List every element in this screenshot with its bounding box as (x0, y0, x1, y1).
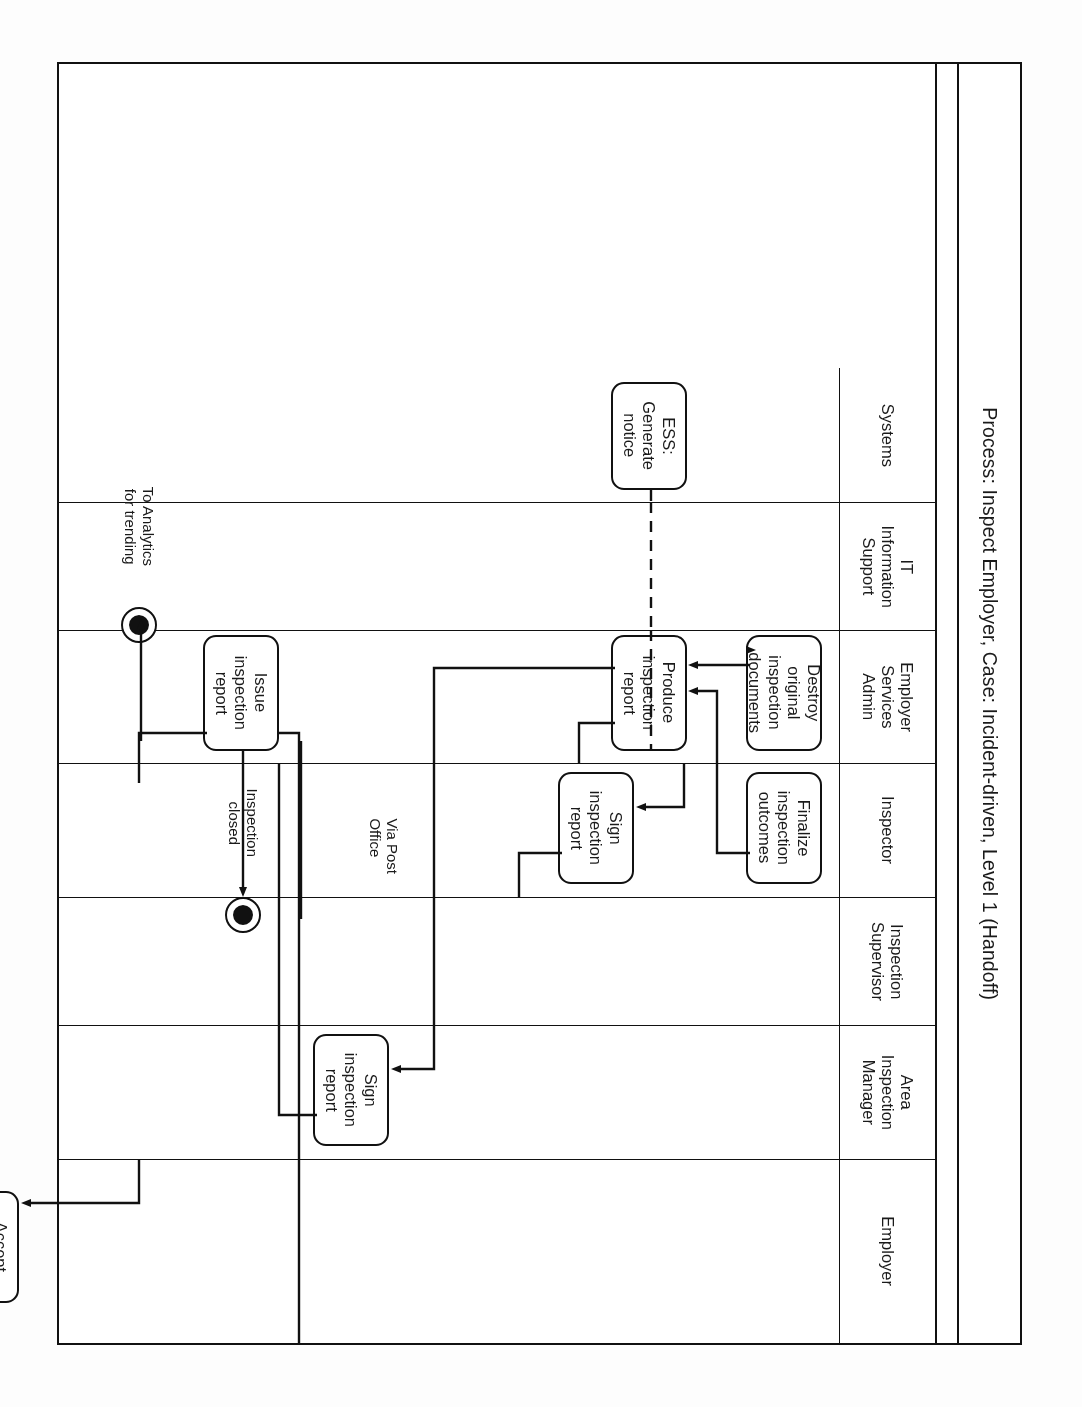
lane-area-inspection-manager: Area Inspection Manager Sign inspection … (59, 1025, 935, 1159)
lane-body-systems: ESS: Generate notice (59, 368, 839, 502)
lane-it-information-support: IT Information Support To Analytics for … (59, 502, 935, 630)
diagram-page: Process: Inspect Employer, Case: Inciden… (0, 0, 1082, 1407)
connectors-area-inspection-manager (59, 1026, 839, 1159)
task-destroy-original-inspection-documents[interactable]: Destroy original inspection documents (746, 635, 822, 751)
task-sign-inspection-report-inspector[interactable]: Sign inspection report (558, 772, 634, 884)
lane-inspection-supervisor: Inspection Supervisor (59, 897, 935, 1025)
connectors-inspection-supervisor (59, 898, 839, 1025)
lane-employer-services-admin: Employer Services Admin Issue inspection… (59, 630, 935, 763)
lane-body-area-inspection-manager: Sign inspection report (59, 1026, 839, 1159)
task-sign-inspection-report-manager[interactable]: Sign inspection report (313, 1034, 389, 1146)
task-accept-inspection-outcomes[interactable]: Accept inspection outcomes (0, 1191, 19, 1303)
task-ess-generate-notice[interactable]: ESS: Generate notice (611, 382, 687, 490)
lane-body-it-information-support: To Analytics for trending (59, 503, 839, 630)
lane-body-inspection-supervisor (59, 898, 839, 1025)
task-produce-inspection-report[interactable]: Produce inspection report (611, 635, 687, 751)
task-issue-inspection-report[interactable]: Issue inspection report (203, 635, 279, 751)
connectors-employer (59, 1160, 839, 1343)
lane-label-area-inspection-manager: Area Inspection Manager (839, 1026, 935, 1159)
connectors-employer-services-admin (59, 631, 839, 763)
connectors-inspector (59, 764, 839, 897)
lane-stack: Employer Accept inspection outcomes To C… (59, 64, 935, 1343)
connectors-it-information-support (59, 503, 839, 630)
connectors-systems (59, 368, 839, 502)
lane-label-systems: Systems (839, 368, 935, 502)
rotated-canvas: Process: Inspect Employer, Case: Inciden… (0, 0, 1082, 1407)
lane-label-inspector: Inspector (839, 764, 935, 897)
end-event-inspection-closed[interactable] (225, 897, 261, 933)
end-event-label-inspection-closed: Inspection closed (225, 785, 261, 875)
flow-label-via-post-office: Via Post Office (367, 815, 401, 891)
task-finalize-inspection-outcomes[interactable]: Finalize inspection outcomes (746, 772, 822, 884)
lane-employer: Employer Accept inspection outcomes To C… (59, 1159, 935, 1343)
lane-body-inspector: Sign inspection report Finalize inspecti… (59, 764, 839, 897)
lane-label-employer-services-admin: Employer Services Admin (839, 631, 935, 763)
lane-label-employer: Employer (839, 1160, 935, 1343)
lane-systems: Systems ESS: Generate notice (59, 368, 935, 502)
lane-label-it-information-support: IT Information Support (839, 503, 935, 630)
lane-body-employer: Accept inspection outcomes To Conduct Ap… (59, 1160, 839, 1343)
process-title: Process: Inspect Employer, Case: Inciden… (978, 407, 1001, 1000)
end-event-to-analytics-for-trending[interactable] (121, 607, 157, 643)
pool: Process: Inspect Employer, Case: Inciden… (57, 62, 1022, 1345)
pool-title-spacer (935, 64, 957, 1343)
lane-inspector: Inspector Sign inspection report Finaliz… (59, 763, 935, 897)
lane-body-employer-services-admin: Issue inspection report Produce inspecti… (59, 631, 839, 763)
pool-title: Process: Inspect Employer, Case: Inciden… (957, 64, 1020, 1343)
lane-label-inspection-supervisor: Inspection Supervisor (839, 898, 935, 1025)
